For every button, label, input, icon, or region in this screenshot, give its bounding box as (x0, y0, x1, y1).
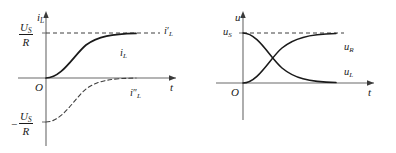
x-axis-left (18, 75, 176, 80)
x-axis-right (216, 80, 374, 85)
origin-label-left: O (35, 82, 43, 93)
y-axis-right (240, 11, 245, 120)
x-axis-arrow-icon (169, 75, 176, 80)
curve-label-total-current: iL (120, 48, 127, 59)
chart-panel-left: iL t O US R − US R i′L iL (0, 0, 198, 153)
figure-root: iL t O US R − US R i′L iL (0, 0, 396, 153)
curve-resistor-voltage (243, 34, 336, 83)
minus-sign: − (11, 119, 17, 130)
x-axis-label-right: t (368, 87, 371, 98)
chart-panel-right: u t O uS uR uL (198, 0, 396, 153)
curve-inductor-voltage (243, 33, 336, 83)
curve-label-transient-current: i″L (130, 88, 141, 99)
ytick-positive-numerator: US (19, 22, 33, 34)
ytick-label-source-voltage: uS (223, 27, 232, 38)
x-axis-label-left: t (170, 82, 173, 93)
curve-label-steady-state-current: i′L (164, 26, 173, 37)
ytick-negative-denominator: R (19, 125, 33, 137)
ytick-positive-denominator: R (19, 36, 33, 48)
y-axis-label-left: iL (37, 12, 44, 23)
curve-label-resistor-voltage: uR (344, 42, 354, 53)
origin-label-right: O (231, 87, 239, 98)
ytick-label-negative: − US R (19, 111, 33, 137)
curve-transient-current (46, 78, 136, 122)
curve-label-inductor-voltage: uL (344, 67, 353, 78)
x-axis-arrow-icon (367, 80, 374, 85)
ytick-label-positive: US R (19, 22, 33, 48)
ytick-negative-numerator: US (19, 111, 33, 123)
y-axis-label-right: u (235, 12, 241, 23)
y-axis-arrow-icon (240, 11, 245, 18)
